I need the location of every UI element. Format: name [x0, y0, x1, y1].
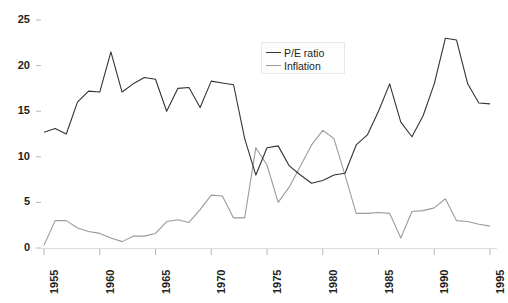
legend-swatch-pe-ratio	[266, 52, 281, 53]
y-tick-label: 15	[4, 105, 30, 116]
x-tick-label: 1965	[161, 270, 172, 294]
x-tick-label: 1990	[439, 270, 450, 294]
plot-area	[0, 0, 508, 303]
x-tick-label: 1995	[495, 270, 506, 294]
legend-label-pe-ratio: P/E ratio	[284, 47, 324, 59]
x-tick-label: 1975	[272, 270, 283, 294]
x-tick-label: 1980	[328, 270, 339, 294]
legend-item-inflation: Inflation	[266, 59, 340, 72]
x-tick-label: 1955	[49, 270, 60, 294]
x-tick-label: 1985	[384, 270, 395, 294]
y-tick-label: 0	[4, 242, 30, 253]
legend-swatch-inflation	[266, 65, 281, 66]
y-tick-label: 25	[4, 14, 30, 25]
y-tick-label: 20	[4, 60, 30, 71]
x-tick-label: 1960	[105, 270, 116, 294]
y-tick-label: 5	[4, 196, 30, 207]
legend-item-pe-ratio: P/E ratio	[266, 46, 340, 59]
line-chart: 0510152025 19551960196519701975198019851…	[0, 0, 508, 303]
x-tick-label: 1970	[216, 270, 227, 294]
y-tick-label: 10	[4, 151, 30, 162]
legend: P/E ratio Inflation	[261, 42, 345, 74]
legend-label-inflation: Inflation	[284, 60, 321, 72]
